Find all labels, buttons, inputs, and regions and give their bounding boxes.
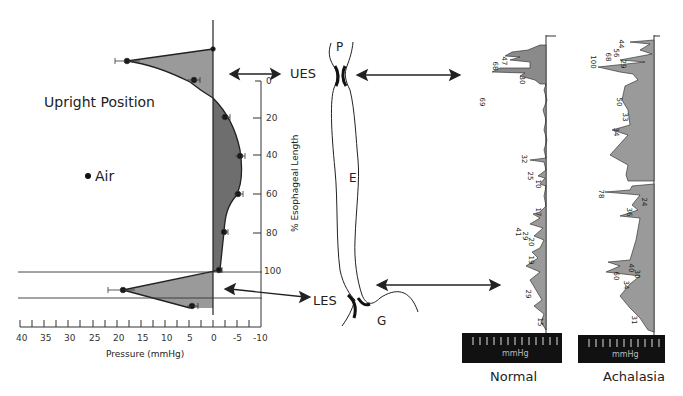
achalasia-peak-label: 50	[615, 98, 623, 107]
y-tick: 100	[264, 266, 281, 276]
achalasia-peak-label: 33	[621, 113, 629, 122]
x-tick: 30	[64, 333, 75, 343]
normal-peak-label: 20	[527, 238, 535, 247]
x-tick: 0	[211, 333, 217, 343]
x-tick: 5	[187, 333, 193, 343]
x-tick: -10	[253, 333, 268, 343]
y-tick: 60	[266, 189, 277, 199]
x-tick: 25	[89, 333, 100, 343]
normal-unit-label: mmHg	[502, 349, 529, 358]
x-axis-label: Pressure (mmHg)	[106, 349, 184, 359]
normal-peak-label: 17	[534, 208, 542, 217]
achalasia-peak-label: 34	[612, 128, 620, 137]
achalasia-peak-label: 60	[612, 272, 620, 281]
esophagus-label: E	[349, 171, 357, 185]
y-tick: 80	[266, 228, 277, 238]
achalasia-tracing	[598, 35, 660, 335]
y-axis-label: % Esophageal Length	[290, 135, 300, 232]
normal-peak-label: 29	[524, 290, 532, 299]
normal-scale-bar: mmHg	[462, 333, 562, 363]
normal-peak-label: 68	[491, 62, 499, 71]
achalasia-peak-label: 24	[640, 198, 648, 207]
achalasia-scale-bar: mmHg	[578, 335, 665, 363]
x-tick: 15	[137, 333, 148, 343]
normal-peak-label: 25	[526, 172, 534, 181]
achalasia-peak-label: 31	[630, 316, 638, 325]
achalasia-peak-label: 36	[625, 208, 633, 217]
ues-label: UES	[290, 66, 316, 81]
achalasia-peak-label: 34	[622, 281, 630, 290]
achalasia-peak-label: 68	[604, 53, 612, 62]
normal-peak-label: 32	[520, 155, 528, 164]
y-tick: 0	[266, 76, 272, 86]
achalasia-peak-label: 29	[619, 60, 627, 69]
chart-title: Upright Position	[44, 94, 155, 110]
achalasia-unit-label: mmHg	[612, 350, 639, 359]
achalasia-peak-label: 56	[612, 49, 620, 58]
normal-peak-label: 47	[500, 57, 508, 66]
normal-peak-label: 10	[534, 180, 542, 189]
normal-peak-label: 30	[518, 76, 526, 85]
pharynx-label: P	[336, 40, 343, 54]
les-label: LES	[313, 293, 337, 308]
stomach-label: G	[377, 314, 386, 328]
achalasia-peak-label: 78	[597, 190, 605, 199]
achalasia-peak-label: 44	[617, 40, 625, 49]
achalasia-peak-label: 100	[589, 55, 597, 68]
x-tick: 40	[16, 333, 27, 343]
x-tick: 35	[40, 333, 51, 343]
legend-air-label: Air	[95, 168, 114, 184]
normal-title: Normal	[490, 369, 537, 384]
x-tick: 20	[113, 333, 124, 343]
achalasia-title: Achalasia	[603, 369, 665, 384]
achalasia-peak-label: 30	[633, 270, 641, 279]
normal-peak-label: 69	[478, 98, 486, 107]
x-tick: 10	[161, 333, 172, 343]
y-tick: 20	[266, 113, 277, 123]
x-tick: -5	[233, 333, 242, 343]
normal-peak-label: 19	[527, 256, 535, 265]
normal-peak-label: 15	[536, 318, 544, 327]
y-tick: 40	[266, 150, 277, 160]
